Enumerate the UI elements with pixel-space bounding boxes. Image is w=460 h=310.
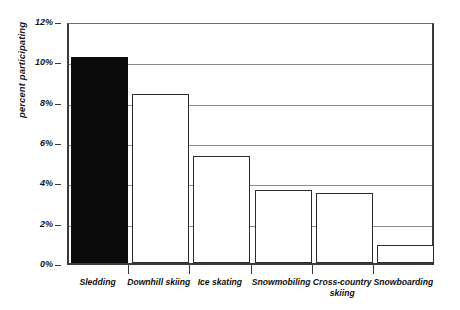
x-axis-label: Snowboarding <box>369 277 438 288</box>
y-axis-tick: 4% <box>0 184 61 185</box>
bar <box>71 57 128 263</box>
x-axis-label: Snowmobiling <box>247 277 316 288</box>
y-axis-tick-mark <box>55 23 61 24</box>
x-axis-label: Sledding <box>63 277 132 288</box>
x-axis-label: Downhill skiing <box>124 277 193 288</box>
y-axis-tick-mark <box>55 104 61 105</box>
bar <box>377 245 434 263</box>
y-axis-tick: 12% <box>0 23 61 24</box>
x-axis-tick-mark <box>128 265 129 274</box>
bars-layer <box>69 24 432 263</box>
x-axis-tick-mark <box>312 265 313 274</box>
y-axis-tick: 10% <box>0 63 61 64</box>
y-axis-tick: 2% <box>0 225 61 226</box>
x-axis-tick-mark <box>373 265 374 274</box>
bar <box>316 193 373 263</box>
y-axis-tick-mark <box>55 144 61 145</box>
y-axis-tick-mark <box>55 63 61 64</box>
y-axis-tick: 6% <box>0 144 61 145</box>
y-axis-tick-label: 10% <box>35 57 53 67</box>
x-axis-label: Cross-country skiing <box>308 277 377 298</box>
y-axis-tick-mark <box>55 184 61 185</box>
y-axis-tick-label: 6% <box>40 138 53 148</box>
y-axis-tick-mark <box>55 225 61 226</box>
bar <box>193 156 250 263</box>
x-axis-label: Ice skating <box>185 277 254 288</box>
y-axis-tick-label: 0% <box>40 259 53 269</box>
y-axis-title: percent participating <box>16 0 27 118</box>
bar <box>255 190 312 263</box>
y-axis-tick-label: 12% <box>35 17 53 27</box>
x-axis-tick-mark <box>189 265 190 274</box>
plot-area <box>67 23 434 265</box>
y-axis-tick: 0% <box>0 265 61 266</box>
y-axis-tick-label: 2% <box>40 219 53 229</box>
bar <box>132 94 189 263</box>
y-axis-tick-mark <box>55 265 61 266</box>
y-axis-tick-label: 4% <box>40 178 53 188</box>
x-axis-tick-mark <box>251 265 252 274</box>
y-axis-tick: 8% <box>0 104 61 105</box>
bar-chart: percent participating 0%2%4%6%8%10%12% S… <box>0 0 460 310</box>
y-axis-tick-label: 8% <box>40 98 53 108</box>
